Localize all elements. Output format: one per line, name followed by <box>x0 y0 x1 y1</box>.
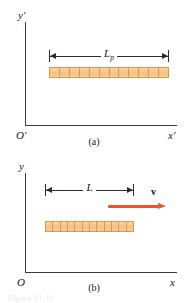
dimension-arrowhead-right <box>127 187 133 193</box>
panel-b-caption: (b) <box>0 282 188 293</box>
rod-segment <box>100 68 110 77</box>
x-axis-line-a <box>25 125 177 126</box>
rod-segment <box>83 222 90 231</box>
dimension-arrowhead-right <box>162 53 168 59</box>
rod-segment <box>60 68 70 77</box>
rod-segment <box>119 222 126 231</box>
rod-segment <box>159 68 168 77</box>
velocity-arrow <box>108 203 166 210</box>
rod-segment <box>80 68 90 77</box>
figure-title-partial: Figure 11-11 <box>8 294 54 303</box>
rod-segment <box>127 222 133 231</box>
rod-segment <box>90 68 100 77</box>
rod-b <box>45 221 134 232</box>
rod-segment <box>97 222 104 231</box>
rod-segment <box>46 222 53 231</box>
dimension-arrowhead-left <box>50 53 56 59</box>
velocity-arrow-head <box>158 203 166 209</box>
y-axis-line-b <box>25 173 26 273</box>
y-axis-line-a <box>25 22 26 126</box>
velocity-label: v <box>151 187 156 197</box>
rod-segment <box>149 68 159 77</box>
contracted-length-label: L <box>83 181 95 193</box>
rod-segment <box>53 222 60 231</box>
velocity-arrow-shaft <box>108 205 159 208</box>
rod-a <box>49 67 169 78</box>
proper-length-label: Lp <box>101 47 117 64</box>
rod-segment <box>119 68 129 77</box>
rod-segment <box>105 222 112 231</box>
rod-segment <box>112 222 119 231</box>
y-axis-label-b: y <box>19 161 24 172</box>
rod-segment <box>139 68 149 77</box>
rod-segment <box>50 68 60 77</box>
rod-segment <box>70 68 80 77</box>
panel-b: y x O L v (b) <box>0 151 188 302</box>
panel-a: y′ x′ O′ Lp (a) <box>0 0 188 151</box>
rod-segment <box>129 68 139 77</box>
y-axis-label-a: y′ <box>18 10 25 21</box>
contracted-length-dimension: L <box>45 184 134 196</box>
proper-length-subscript: p <box>110 53 114 62</box>
proper-length-dimension: Lp <box>49 50 169 62</box>
rod-segment <box>68 222 75 231</box>
dimension-arrowhead-left <box>46 187 52 193</box>
rod-segment <box>90 222 97 231</box>
rod-segment <box>110 68 120 77</box>
rod-segment <box>75 222 82 231</box>
rod-segment <box>61 222 68 231</box>
x-axis-line-b <box>25 272 177 273</box>
panel-a-caption: (a) <box>0 136 188 147</box>
